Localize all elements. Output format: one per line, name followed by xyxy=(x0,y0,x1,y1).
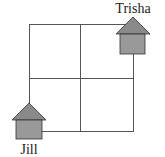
house-trisha xyxy=(116,17,150,54)
house-body-icon xyxy=(120,34,145,54)
house-roof-icon xyxy=(12,103,46,120)
grid xyxy=(30,25,134,132)
label-trisha: Trisha xyxy=(115,1,151,16)
house-jill xyxy=(12,103,46,139)
label-jill: Jill xyxy=(20,142,37,157)
house-body-icon xyxy=(16,120,42,139)
grid-diagram: Trisha Jill xyxy=(0,0,165,157)
house-roof-icon xyxy=(116,17,150,34)
